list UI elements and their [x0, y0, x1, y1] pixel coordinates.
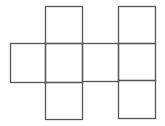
net-face-a-mid: [46, 44, 83, 83]
net-face-b-mid: [119, 44, 156, 81]
net-face-b-top: [119, 7, 156, 44]
net-face-b-bottom: [119, 81, 156, 119]
net-face-center: [83, 44, 119, 82]
net-face-a-top: [46, 7, 83, 44]
net-face-left: [11, 44, 46, 83]
net-face-a-bottom: [46, 83, 83, 120]
cube-net-diagram: [0, 0, 165, 126]
